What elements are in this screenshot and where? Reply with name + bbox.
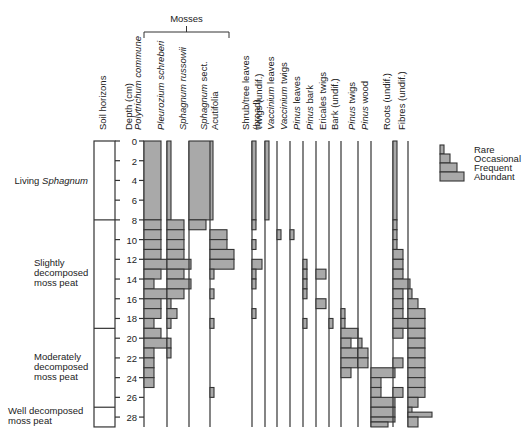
abundance-bar	[167, 249, 184, 259]
abundance-bar	[408, 318, 425, 328]
soil-horizon-column	[94, 141, 115, 427]
abundance-bar	[303, 318, 307, 328]
abundance-bar	[144, 289, 168, 299]
abundance-bar	[144, 141, 161, 220]
abundance-bar	[252, 259, 262, 269]
depth-tick-label: 14	[126, 274, 137, 285]
abundance-bar	[167, 318, 171, 328]
abundance-bar	[329, 318, 333, 328]
abundance-bar	[393, 259, 403, 269]
abundance-bar	[167, 279, 191, 289]
abundance-bar	[408, 309, 425, 319]
abundance-bar	[252, 141, 256, 220]
taxon-header: Pleurozium schreberi	[155, 40, 166, 130]
depth-tick-label: 6	[132, 195, 137, 206]
abundance-bar	[144, 220, 161, 230]
abundance-bar	[144, 358, 154, 368]
abundance-bar	[393, 358, 403, 368]
mosses-group-label: Mosses	[170, 13, 203, 24]
abundance-bar	[393, 240, 397, 250]
abundance-bar	[290, 230, 294, 240]
soil-horizon-label: moss peat	[8, 415, 52, 426]
abundance-bar	[167, 230, 184, 240]
abundance-bar	[144, 378, 154, 388]
soil-horizon-label: moss peat	[34, 277, 78, 288]
taxon-header: Pinus leaves	[291, 76, 302, 130]
stratigraphic-chart: MossesSoil horizonsDepth (cm)Polytrichum…	[0, 0, 522, 442]
depth-tick-label: 22	[126, 353, 137, 364]
taxon-header: Ericales twigs	[317, 72, 328, 130]
abundance-bar	[341, 309, 345, 319]
depth-tick-label: 26	[126, 392, 137, 403]
depth-tick-label: 0	[132, 136, 137, 147]
abundance-bar	[358, 358, 368, 368]
abundance-bar	[167, 289, 184, 299]
legend-label-abundant: Abundant	[474, 171, 515, 182]
abundance-bar	[371, 388, 381, 398]
abundance-bar	[144, 348, 154, 358]
depth-tick-label: 2	[132, 156, 137, 167]
abundance-bar	[252, 220, 256, 230]
abundance-bar	[167, 141, 171, 220]
abundance-bar	[393, 289, 403, 299]
abundance-bar	[408, 368, 425, 378]
abundance-bar	[144, 279, 154, 289]
abundance-bar	[144, 249, 161, 259]
abundance-bar	[393, 141, 397, 220]
abundance-bar	[408, 348, 425, 358]
abundance-bar	[277, 230, 281, 240]
abundance-bar	[144, 338, 168, 348]
abundance-bar	[316, 269, 326, 279]
abundance-bar	[408, 397, 418, 407]
abundance-bar	[210, 318, 214, 328]
abundance-bar	[144, 368, 154, 378]
abundance-bar	[144, 328, 161, 338]
abundance-bar	[210, 230, 227, 240]
abundance-bar	[167, 220, 184, 230]
abundance-bar	[144, 318, 154, 328]
abundance-bar	[167, 348, 171, 358]
abundance-bar	[303, 289, 307, 299]
abundance-bar	[144, 269, 161, 279]
taxon-header: Polytrichum commune	[132, 36, 143, 130]
depth-tick-label: 16	[126, 294, 137, 305]
abundance-bar	[144, 230, 161, 240]
abundance-bar	[408, 358, 425, 368]
abundance-bar	[371, 378, 381, 388]
taxon-header: Sphagnum russowii	[177, 46, 188, 130]
taxon-header: Roots (undif.)	[381, 73, 392, 130]
abundance-bar	[316, 299, 326, 309]
abundance-bar	[303, 269, 307, 279]
abundance-bar	[408, 388, 425, 398]
abundance-bar	[371, 417, 395, 422]
abundance-bar	[393, 220, 397, 230]
abundance-bar	[371, 397, 395, 407]
abundance-bar	[393, 388, 403, 398]
depth-tick-label: 10	[126, 235, 137, 246]
abundance-bar	[371, 422, 388, 427]
abundance-bar	[167, 309, 177, 319]
taxon-header: Pinus wood	[359, 81, 370, 130]
abundance-bar	[144, 240, 161, 250]
taxon-header: Pinus bark	[304, 85, 315, 130]
taxon-header: Vaccinium twigs	[278, 62, 289, 130]
abundance-bar	[167, 299, 171, 309]
abundance-bar	[341, 338, 351, 348]
mosses-bracket	[144, 26, 229, 38]
depth-tick-label: 18	[126, 313, 137, 324]
abundance-bar	[167, 240, 184, 250]
depth-tick-label: 4	[132, 175, 137, 186]
depth-tick-label: 24	[126, 373, 137, 384]
soil-horizon-label: moss peat	[34, 371, 78, 382]
legend-swatch	[440, 154, 450, 163]
abundance-bar	[303, 279, 307, 289]
taxon-header: Pinus twigs	[346, 82, 357, 130]
abundance-bar	[408, 328, 425, 338]
abundance-bar	[252, 309, 256, 319]
abundance-bar	[408, 338, 425, 348]
abundance-bar	[252, 269, 256, 279]
abundance-bar	[252, 240, 256, 250]
depth-tick-label: 8	[132, 215, 137, 226]
abundance-bar	[144, 309, 161, 319]
abundance-bar	[252, 279, 256, 289]
